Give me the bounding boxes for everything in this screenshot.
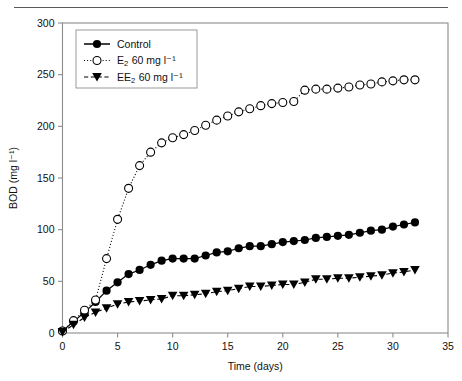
marker-filled-circle	[400, 220, 408, 228]
marker-filled-triangle-down	[201, 290, 211, 298]
marker-open-circle	[213, 116, 221, 124]
y-axis-tick-label: 250	[37, 68, 55, 80]
marker-open-circle	[378, 78, 386, 86]
marker-filled-triangle-down	[135, 297, 145, 305]
marker-filled-circle	[93, 40, 101, 48]
marker-open-circle	[136, 162, 144, 170]
marker-open-circle	[202, 121, 210, 129]
marker-filled-triangle-down	[80, 314, 90, 322]
marker-filled-triangle-down	[234, 285, 244, 293]
marker-open-circle	[356, 81, 364, 89]
marker-open-circle	[180, 131, 188, 139]
marker-open-circle	[301, 86, 309, 94]
marker-filled-circle	[323, 233, 331, 241]
series-e2-60-mg-l-1	[59, 76, 419, 335]
x-axis-tick-label: 35	[442, 340, 454, 352]
marker-open-circle	[224, 112, 232, 120]
legend-entry-label: EE260 mg l⁻¹	[117, 71, 183, 85]
y-axis-tick-label: 300	[37, 17, 55, 29]
marker-open-circle	[158, 139, 166, 147]
marker-open-circle	[235, 108, 243, 116]
marker-open-circle	[246, 105, 254, 113]
marker-open-circle	[92, 296, 100, 304]
marker-open-circle	[257, 102, 265, 110]
legend: ControlE260 mg l⁻¹EE260 mg l⁻¹	[76, 30, 197, 88]
marker-open-circle	[345, 83, 353, 91]
figure-container: 05010015020025030005101520253035Time (da…	[0, 0, 462, 381]
y-axis-tick-label: 100	[37, 223, 55, 235]
marker-filled-triangle-down	[289, 280, 299, 288]
marker-filled-circle	[202, 251, 210, 259]
marker-filled-circle	[136, 266, 144, 274]
marker-filled-circle	[268, 240, 276, 248]
marker-filled-triangle-down	[377, 271, 387, 279]
marker-filled-circle	[389, 222, 397, 230]
marker-filled-circle	[213, 248, 221, 256]
x-axis-title: Time (days)	[228, 360, 283, 372]
marker-filled-triangle-down	[113, 300, 123, 308]
marker-filled-circle	[169, 255, 177, 263]
marker-open-circle	[103, 255, 111, 263]
legend-entry-label: Control	[117, 38, 151, 50]
marker-open-circle	[147, 148, 155, 156]
y-axis-tick-label: 50	[43, 275, 55, 287]
series-line	[63, 80, 415, 331]
marker-filled-circle	[224, 247, 232, 255]
marker-filled-triangle-down	[102, 304, 112, 312]
x-axis-tick-label: 30	[387, 340, 399, 352]
marker-filled-circle	[411, 218, 419, 226]
marker-open-circle	[93, 57, 101, 65]
marker-filled-triangle-down	[256, 283, 266, 291]
marker-filled-circle	[367, 227, 375, 235]
marker-filled-circle	[124, 270, 132, 278]
x-axis-tick-label: 20	[277, 340, 289, 352]
marker-filled-circle	[301, 236, 309, 244]
marker-open-circle	[125, 184, 133, 192]
marker-open-circle	[389, 77, 397, 85]
marker-filled-circle	[113, 278, 121, 286]
marker-open-circle	[268, 100, 276, 108]
chart-canvas: 05010015020025030005101520253035Time (da…	[0, 0, 462, 381]
y-axis-tick-label: 200	[37, 120, 55, 132]
marker-filled-circle	[279, 238, 287, 246]
marker-filled-circle	[147, 261, 155, 269]
y-axis-title: BOD (mg l⁻¹)	[7, 147, 19, 209]
series-ee2-60-mg-l-1	[58, 266, 420, 336]
marker-filled-circle	[378, 226, 386, 234]
marker-open-circle	[411, 76, 419, 84]
marker-open-circle	[334, 84, 342, 92]
marker-filled-triangle-down	[168, 292, 178, 300]
marker-open-circle	[323, 85, 331, 93]
marker-open-circle	[81, 306, 89, 314]
marker-filled-circle	[158, 257, 166, 265]
marker-filled-circle	[312, 234, 320, 242]
marker-open-circle	[400, 76, 408, 84]
marker-filled-circle	[180, 255, 188, 263]
x-axis-tick-label: 0	[60, 340, 66, 352]
marker-filled-circle	[257, 242, 265, 250]
y-axis-tick-label: 0	[49, 327, 55, 339]
x-axis-tick-label: 5	[115, 340, 121, 352]
marker-open-circle	[312, 85, 320, 93]
marker-filled-triangle-down	[344, 274, 354, 282]
marker-open-circle	[279, 99, 287, 107]
x-axis-tick-label: 10	[167, 340, 179, 352]
marker-open-circle	[367, 80, 375, 88]
marker-filled-circle	[334, 232, 342, 240]
marker-filled-triangle-down	[223, 287, 233, 295]
marker-open-circle	[169, 134, 177, 142]
marker-filled-triangle-down	[91, 308, 101, 316]
marker-filled-circle	[246, 242, 254, 250]
marker-filled-circle	[345, 231, 353, 239]
marker-filled-circle	[102, 287, 110, 295]
marker-filled-circle	[191, 255, 199, 263]
marker-open-circle	[290, 98, 298, 106]
marker-filled-circle	[235, 244, 243, 252]
x-axis-tick-label: 25	[332, 340, 344, 352]
marker-open-circle	[191, 126, 199, 134]
marker-open-circle	[114, 215, 122, 223]
marker-filled-circle	[356, 229, 364, 237]
marker-filled-triangle-down	[410, 266, 420, 274]
marker-filled-circle	[290, 237, 298, 245]
x-axis-tick-label: 15	[222, 340, 234, 352]
